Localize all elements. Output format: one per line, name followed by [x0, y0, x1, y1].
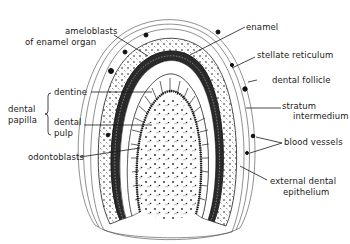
label-dentine: dentine	[54, 87, 87, 97]
label-text: dental	[8, 104, 36, 114]
label-text: of enamel organ	[25, 37, 96, 47]
label-text: blood vessels	[284, 137, 343, 147]
label-text: pulp	[54, 128, 73, 138]
label-text: dental follicle	[272, 75, 331, 85]
label-text: intermedium	[293, 111, 349, 121]
label-external-dental-epithelium-1: external dental	[270, 176, 336, 186]
label-text: papilla	[8, 115, 37, 125]
dental-papilla-brace	[45, 93, 51, 135]
label-text: stellate reticulum	[257, 50, 333, 60]
label-dental-pulp-1: dental	[54, 117, 82, 127]
label-text: epithelium	[283, 187, 329, 197]
label-dental-follicle: dental follicle	[272, 75, 331, 85]
label-stellate-reticulum: stellate reticulum	[257, 50, 333, 60]
label-text: external dental	[270, 176, 336, 186]
label-dental-papilla-1: dental	[8, 104, 36, 114]
label-ameloblasts-sub: of enamel organ	[25, 37, 96, 47]
label-blood-vessels: blood vessels	[284, 137, 343, 147]
dental-pulp	[139, 97, 198, 220]
label-dental-pulp-2: pulp	[54, 128, 73, 138]
label-text: enamel	[246, 22, 278, 32]
label-stratum-intermedium-2: intermedium	[293, 111, 349, 121]
label-text: stratum	[282, 101, 316, 111]
label-stratum-intermedium-1: stratum	[282, 101, 316, 111]
label-external-dental-epithelium-2: epithelium	[283, 187, 329, 197]
label-dental-papilla-2: papilla	[8, 115, 37, 125]
label-text: dentine	[54, 87, 87, 97]
label-text: odontoblasts	[28, 152, 84, 162]
label-odontoblasts: odontoblasts	[28, 152, 84, 162]
label-text: ameloblasts	[65, 26, 118, 36]
label-enamel: enamel	[246, 22, 278, 32]
label-ameloblasts: ameloblasts	[65, 26, 118, 36]
label-text: dental	[54, 117, 82, 127]
